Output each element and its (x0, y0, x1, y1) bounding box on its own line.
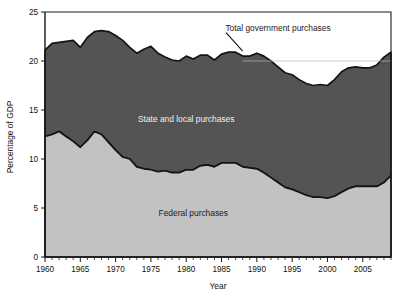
svg-text:2000: 2000 (318, 265, 337, 274)
y-axis-title: Percentage of GDP (5, 100, 15, 173)
svg-text:5: 5 (33, 204, 38, 213)
stacked-area-chart: 0510152025196019651970197519801985199019… (0, 0, 420, 294)
chart-figure: 0510152025196019651970197519801985199019… (0, 0, 420, 294)
svg-text:1995: 1995 (283, 265, 302, 274)
svg-text:15: 15 (29, 106, 39, 115)
svg-text:2005: 2005 (354, 265, 373, 274)
svg-text:1990: 1990 (248, 265, 267, 274)
svg-text:1980: 1980 (177, 265, 196, 274)
annotation-state-and-local-purchases: State and local purchases (138, 114, 234, 124)
svg-text:25: 25 (29, 8, 39, 17)
svg-text:20: 20 (29, 57, 39, 66)
svg-text:1975: 1975 (142, 265, 161, 274)
svg-text:0: 0 (33, 253, 38, 262)
x-axis-title: Year (210, 281, 227, 291)
annotation-total-government-purchases: Total government purchases (225, 23, 330, 33)
annotation-federal-purchases: Federal purchases (159, 208, 228, 218)
svg-text:1985: 1985 (212, 265, 231, 274)
svg-text:1960: 1960 (36, 265, 55, 274)
svg-text:1970: 1970 (107, 265, 126, 274)
svg-text:1965: 1965 (71, 265, 90, 274)
svg-text:10: 10 (29, 155, 39, 164)
